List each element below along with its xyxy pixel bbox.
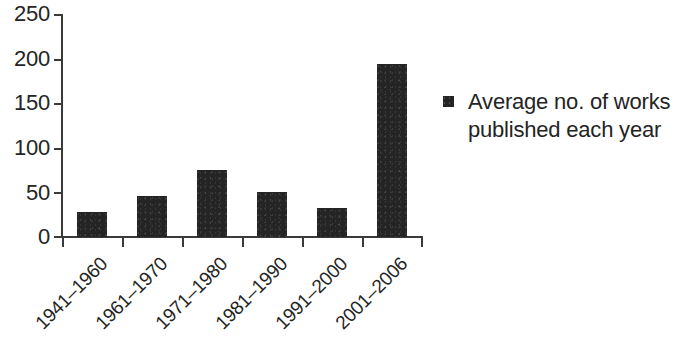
x-axis-tick-2 [182,238,184,247]
x-axis-tick-0 [62,238,64,247]
legend-label: Average no. of works published each year [468,88,670,144]
y-tick-label-50: 50 [2,182,50,204]
y-tick-label-250: 250 [2,3,50,25]
y-axis-labels: 250 200 150 100 50 0 [0,0,50,345]
bar-1961–1970 [137,196,167,237]
chart-legend: Average no. of works published each year [443,88,670,144]
bar-1991–2000 [317,208,347,237]
bars-container [62,14,423,237]
bar-1971–1980 [197,170,227,237]
bar-2001–2006 [377,64,407,237]
x-axis-tick-6 [421,238,423,247]
bar-chart: 250 200 150 100 50 0 1941–19601961–19701… [0,0,692,345]
legend-label-line-1: Average no. of works [468,89,670,114]
legend-label-line-2: published each year [468,117,661,142]
bar-1981–1990 [257,192,287,237]
y-tick-label-100: 100 [2,137,50,159]
y-tick-label-0: 0 [2,226,50,248]
x-axis-tick-3 [242,238,244,247]
y-tick-label-150: 150 [2,92,50,114]
x-axis-tick-1 [122,238,124,247]
x-axis-tick-5 [362,238,364,247]
bar-1941–1960 [77,212,107,237]
y-tick-label-200: 200 [2,48,50,70]
x-axis-tick-4 [302,238,304,247]
legend-swatch-icon [443,96,454,107]
